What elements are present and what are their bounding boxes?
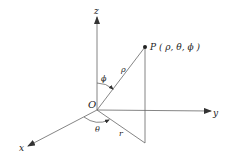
theta-label: θ [95,125,100,134]
rho-label: ρ [120,65,126,74]
x-axis-label: x [19,143,24,153]
spherical-coordinates-diagram: z y x O P ( ρ, θ, ϕ ) ρ ϕ θ r [0,0,228,165]
theta-angle-arc [84,117,109,122]
point-p-dot [143,45,147,49]
phi-angle-arc [97,83,113,89]
r-segment [97,110,145,143]
y-axis [97,110,211,111]
point-p-label: P ( ρ, θ, ϕ ) [149,42,200,52]
phi-label: ϕ [101,74,107,83]
z-axis-label: z [93,6,99,16]
x-axis [28,110,97,146]
origin-label: O [88,99,96,110]
y-axis-label: y [212,108,219,118]
r-label: r [119,129,124,138]
